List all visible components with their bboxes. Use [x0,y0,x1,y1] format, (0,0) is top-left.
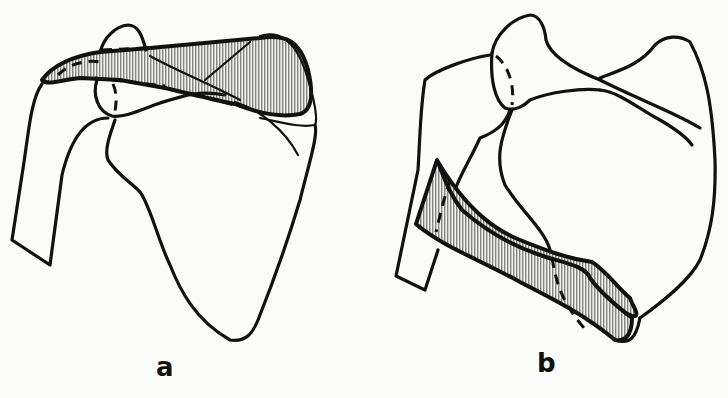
panel-b [396,15,715,342]
humerus-shaft-a [12,84,108,265]
glenoid-outline-b [492,53,600,109]
panel-a [12,25,316,340]
acromion-b [600,37,715,318]
dashed-line-a2 [102,48,145,50]
humeral-head-b [492,15,700,128]
hatched-spine-a [42,37,311,115]
scapula-body-a [107,120,316,340]
scapula-inner-b [500,110,550,250]
panel-label-b: b [537,350,556,376]
dashed-line-a5 [113,84,116,118]
scapula-diagram [0,0,728,398]
panel-label-a: a [156,354,174,380]
figure [0,0,728,398]
